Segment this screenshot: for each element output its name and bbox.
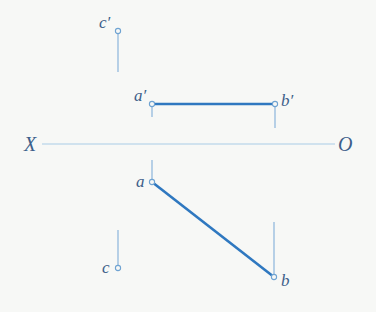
point-c-prime-marker [115, 28, 120, 33]
label-a: a [136, 172, 145, 191]
axis-label-o: O [338, 133, 352, 155]
point-b-prime-marker [272, 101, 277, 106]
point-markers [115, 28, 277, 279]
label-a-prime: a′ [134, 86, 147, 105]
label-b-prime: b′ [281, 91, 294, 110]
point-c-marker [115, 265, 120, 270]
projection-diagram: X O c′ a′ b′ a b c [0, 0, 376, 312]
segment-a-b [152, 182, 274, 277]
label-c: c [102, 258, 110, 277]
point-b-marker [271, 274, 276, 279]
point-a-marker [149, 179, 154, 184]
point-a-prime-marker [149, 101, 154, 106]
label-b: b [281, 271, 290, 290]
diagram-svg: X O c′ a′ b′ a b c [0, 0, 376, 312]
projector-lines [118, 34, 275, 274]
label-c-prime: c′ [99, 13, 111, 32]
axis-label-x: X [23, 133, 37, 155]
